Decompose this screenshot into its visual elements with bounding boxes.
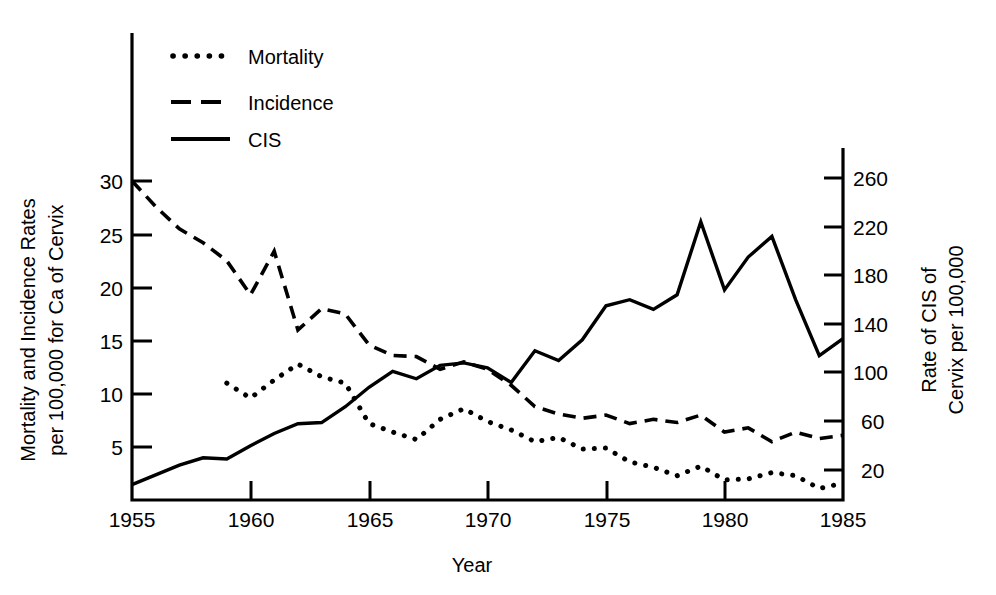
right-tick-label: 20 (861, 459, 884, 482)
right-tick-label: 140 (853, 313, 888, 336)
left-tick-label: 15 (100, 330, 123, 353)
right-tick-label: 180 (853, 264, 888, 287)
left-tick-label: 20 (100, 277, 123, 300)
left-tick-label: 30 (100, 170, 123, 193)
left-tick-label: 5 (111, 436, 123, 459)
right-axis-title-line2: Cervix per 100,000 (945, 246, 967, 415)
left-axis-title-line1: Mortality and Incidence Rates (17, 198, 39, 461)
x-axis-title: Year (452, 554, 493, 576)
right-tick-label: 220 (853, 216, 888, 239)
legend-label-mortality: Mortality (248, 46, 324, 68)
chart-background (0, 0, 996, 595)
chart-figure: 30 25 20 15 10 5 260 220 180 140 100 60 … (0, 0, 996, 595)
x-tick-label: 1970 (465, 508, 512, 531)
left-tick-label: 10 (100, 383, 123, 406)
x-tick-label: 1965 (347, 508, 394, 531)
legend-label-cis: CIS (248, 129, 281, 151)
left-tick-label: 25 (100, 224, 123, 247)
right-tick-label: 260 (853, 167, 888, 190)
x-tick-label: 1955 (109, 508, 156, 531)
left-axis-title-line2: per 100,000 for Ca of Cervix (45, 204, 67, 455)
x-tick-label: 1985 (820, 508, 867, 531)
right-tick-label: 60 (861, 410, 884, 433)
x-tick-label: 1980 (702, 508, 749, 531)
right-axis-title-line1: Rate of CIS of (918, 267, 940, 393)
legend-label-incidence: Incidence (248, 92, 334, 114)
cervix-rates-line-chart: 30 25 20 15 10 5 260 220 180 140 100 60 … (0, 0, 996, 595)
right-tick-label: 100 (853, 361, 888, 384)
x-tick-label: 1975 (584, 508, 631, 531)
x-tick-label: 1960 (228, 508, 275, 531)
